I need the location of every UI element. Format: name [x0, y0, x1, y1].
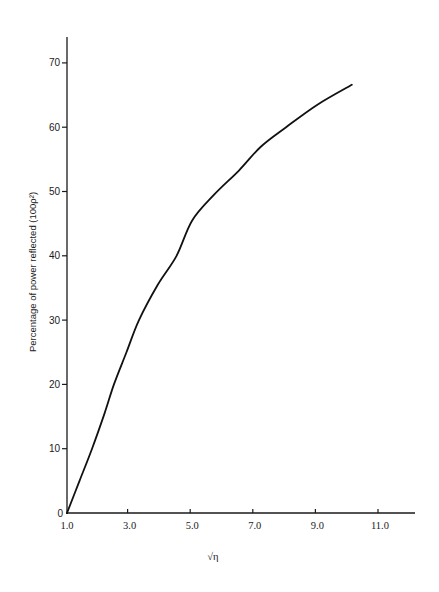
y-tick-label: 10 — [49, 443, 61, 454]
y-tick-label: 70 — [49, 57, 61, 68]
y-tick-label: 0 — [57, 508, 63, 519]
data-line — [67, 85, 352, 513]
y-tick-label: 30 — [49, 315, 61, 326]
x-tick-label: 3.0 — [123, 520, 136, 531]
x-axis-label: √η — [207, 551, 218, 562]
y-axis-label: Percentage of power reflected (100ρ²) — [27, 192, 38, 352]
y-tick-label: 20 — [49, 379, 61, 390]
chart: 010203040506070 1.03.05.07.09.011.0 Perc… — [0, 0, 439, 592]
axes — [66, 37, 415, 514]
y-ticks: 010203040506070 — [49, 57, 67, 518]
y-tick-label: 50 — [49, 186, 61, 197]
y-tick-label: 40 — [49, 250, 61, 261]
x-tick-label: 9.0 — [311, 520, 324, 531]
x-tick-label: 5.0 — [186, 520, 199, 531]
x-tick-label: 1.0 — [60, 520, 73, 531]
x-tick-label: 7.0 — [248, 520, 261, 531]
y-tick-label: 60 — [49, 122, 61, 133]
x-tick-label: 11.0 — [371, 520, 389, 531]
x-ticks: 1.03.05.07.09.011.0 — [60, 509, 389, 531]
